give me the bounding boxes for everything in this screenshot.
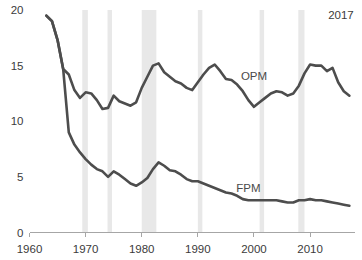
x-axis-tick-labels: 196019701980199020002010 (17, 243, 323, 255)
x-tick-label-1980: 1980 (129, 243, 155, 255)
recession-1973-1975 (108, 10, 112, 233)
y-tick-label-5: 5 (17, 171, 23, 183)
recession-1980-1982 (142, 10, 157, 233)
x-tick-label-2000: 2000 (241, 243, 267, 255)
chart-container: 05101520 196019701980199020002010 OPMFPM… (0, 0, 362, 260)
annotations-group: 2017 (328, 9, 354, 21)
line-chart: 05101520 196019701980199020002010 OPMFPM… (0, 0, 362, 260)
series-label-opm: OPM (241, 70, 267, 82)
series-label-fpm: FPM (236, 182, 260, 194)
y-tick-label-15: 15 (11, 60, 24, 72)
y-tick-label-0: 0 (17, 227, 23, 239)
recession-1990-1991 (198, 10, 202, 233)
y-tick-label-10: 10 (11, 115, 24, 127)
end-year-note: 2017 (328, 9, 354, 21)
x-tick-label-1960: 1960 (17, 243, 43, 255)
y-tick-label-20: 20 (11, 4, 24, 16)
tick-marks-group (30, 233, 311, 237)
x-tick-label-2010: 2010 (297, 243, 323, 255)
x-tick-label-1990: 1990 (185, 243, 211, 255)
recession-1969-1970 (82, 10, 88, 233)
y-axis-tick-labels: 05101520 (11, 4, 24, 239)
x-tick-label-1970: 1970 (73, 243, 99, 255)
